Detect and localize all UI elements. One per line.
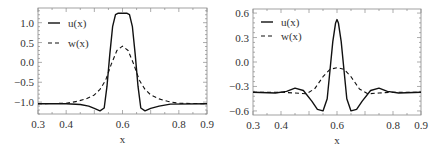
x-tick-label: 0.9 bbox=[200, 118, 214, 130]
x-tick-label: 0.3 bbox=[246, 119, 260, 131]
y-tick-label: 0.0 bbox=[235, 56, 249, 68]
y-tick-label: 0.0 bbox=[20, 56, 34, 68]
x-axis-label: x bbox=[334, 134, 340, 146]
legend-label: u(x) bbox=[68, 17, 87, 30]
x-tick-label: 0.8 bbox=[172, 118, 186, 130]
figure: 1.00.50.0−0.5−1.00.30.40.60.80.9xu(x)w(x… bbox=[0, 0, 442, 150]
x-tick-label: 0.4 bbox=[274, 119, 288, 131]
series-u-line bbox=[253, 20, 421, 111]
legend-label: u(x) bbox=[281, 16, 300, 29]
series-w-line bbox=[253, 68, 421, 94]
x-tick-label: 0.6 bbox=[116, 118, 130, 130]
y-tick-label: 0.3 bbox=[235, 32, 249, 44]
x-tick-label: 0.6 bbox=[330, 119, 344, 131]
plot-frame bbox=[253, 9, 421, 115]
right-chart-panel: 0.60.30.0−0.3−0.60.30.40.60.80.9xu(x)w(x… bbox=[229, 7, 428, 146]
left-chart-panel: 1.00.50.0−0.5−1.00.30.40.60.80.9xu(x)w(x… bbox=[14, 8, 214, 145]
y-tick-label: 1.0 bbox=[20, 17, 34, 29]
x-axis-label: x bbox=[120, 133, 126, 145]
series-w-line bbox=[38, 46, 207, 104]
x-tick-label: 0.8 bbox=[386, 119, 400, 131]
y-tick-label: −0.6 bbox=[229, 105, 249, 117]
legend-label: w(x) bbox=[68, 37, 89, 50]
series-u-line bbox=[38, 13, 207, 111]
y-tick-label: −0.5 bbox=[14, 76, 34, 88]
y-tick-label: −1.0 bbox=[14, 96, 34, 108]
y-tick-label: −0.3 bbox=[229, 80, 249, 92]
y-tick-label: 0.5 bbox=[20, 37, 34, 49]
x-tick-label: 0.9 bbox=[414, 119, 428, 131]
x-tick-label: 0.3 bbox=[31, 118, 45, 130]
y-tick-label: 0.6 bbox=[235, 7, 249, 19]
plot-frame bbox=[38, 8, 207, 114]
x-tick-label: 0.4 bbox=[59, 118, 73, 130]
legend-label: w(x) bbox=[281, 30, 302, 43]
